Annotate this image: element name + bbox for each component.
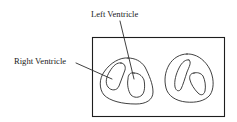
- label-left-ventricle: Left Ventricle: [91, 9, 139, 19]
- right-slice-outer-wall: [165, 54, 213, 102]
- leader-line-right-ventricle: [76, 63, 112, 79]
- heart-cross-section-diagram: Left Ventricle Right Ventricle: [0, 0, 237, 122]
- label-right-ventricle: Right Ventricle: [14, 56, 66, 66]
- left-slice-outer-wall: [100, 58, 153, 104]
- right-slice-left-ventricle-cavity: [190, 73, 206, 95]
- leader-line-left-ventricle: [120, 21, 134, 79]
- image-frame: [93, 38, 225, 117]
- right-slice-right-ventricle-cavity: [175, 60, 191, 91]
- left-slice-right-ventricle-cavity: [106, 63, 125, 90]
- left-slice-left-ventricle-cavity: [128, 73, 145, 97]
